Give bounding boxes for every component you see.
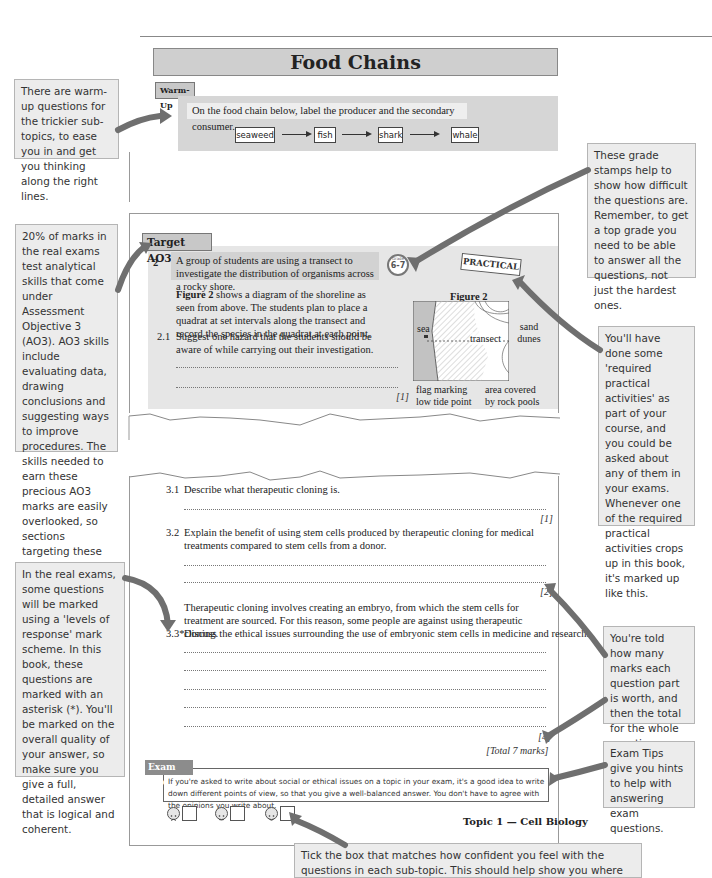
- callout-marks: You're told how many marks each question…: [603, 626, 695, 724]
- label-rock-pools: area covered by rock pools: [485, 384, 545, 408]
- q21-text: Suggest one hazard that the students sho…: [176, 330, 381, 356]
- q33-mark: [4]: [538, 731, 551, 742]
- answer-line[interactable]: [184, 565, 546, 566]
- figure-ref: Figure 2: [176, 289, 213, 300]
- arrow-exam-tips: [555, 765, 605, 778]
- answer-line[interactable]: [184, 509, 546, 510]
- chain-arrow: [342, 134, 370, 135]
- neutral-face-icon: [215, 807, 228, 820]
- answer-line[interactable]: [176, 367, 398, 368]
- confidence-checkbox-medium[interactable]: [230, 806, 245, 821]
- callout-exam-tips: Exam Tips give you hints to help with an…: [603, 741, 695, 808]
- arrow-warmup: [118, 116, 160, 130]
- answer-line[interactable]: [184, 707, 546, 708]
- page-title: Food Chains: [153, 48, 558, 76]
- answer-line[interactable]: [184, 582, 546, 583]
- label-flag: flag marking low tide point: [416, 384, 484, 408]
- label-transect: transect: [470, 332, 501, 345]
- q31-number: 3.1: [166, 483, 179, 496]
- callout-tick-box: Tick the box that matches how confident …: [294, 843, 642, 878]
- top-divider: [140, 36, 712, 37]
- callout-ao3: 20% of marks in the real exams test anal…: [15, 224, 118, 452]
- page1-bottom-edge: [129, 152, 130, 202]
- confidence-checkbox-low[interactable]: [182, 806, 197, 821]
- total-marks: [Total 7 marks]: [486, 745, 548, 756]
- q32-text: Explain the benefit of using stem cells …: [184, 526, 549, 552]
- chain-arrow: [410, 134, 438, 135]
- callout-warmup: There are warm-up questions for the tric…: [14, 79, 119, 159]
- sad-face-icon: [167, 807, 180, 820]
- answer-line[interactable]: [184, 652, 546, 653]
- answer-line[interactable]: [184, 670, 546, 671]
- answer-line[interactable]: [184, 689, 546, 690]
- exam-tip-tag: Exam Tip: [145, 760, 193, 775]
- answer-line[interactable]: [176, 387, 398, 388]
- happy-face-icon: [265, 807, 278, 820]
- label-sea: sea: [417, 322, 430, 335]
- q31-mark: [1]: [540, 513, 553, 524]
- answer-line[interactable]: [184, 726, 546, 727]
- callout-practical: You'll have done some 'required practica…: [598, 326, 695, 526]
- q32-number: 3.2: [166, 526, 179, 539]
- callout-grade-stamps: These grade stamps help to show how diff…: [587, 143, 696, 278]
- chain-arrow: [282, 134, 310, 135]
- grade-stamp-value: 6-7: [389, 261, 407, 270]
- q31-text: Describe what therapeutic cloning is.: [184, 483, 340, 496]
- chain-item-whale: whale: [451, 127, 479, 143]
- target-ao3-tag: Target AO3: [142, 233, 212, 251]
- callout-levels-of-response: In the real exams, some questions will b…: [15, 562, 125, 777]
- grade-stamp: Grade 6-7: [387, 254, 409, 276]
- q32-mark: [2]: [540, 586, 553, 597]
- chain-item-shark: shark: [378, 127, 403, 143]
- q21-mark: [1]: [396, 391, 409, 402]
- chain-item-seaweed: seaweed: [235, 127, 275, 143]
- warmup-question: On the food chain below, label the produ…: [187, 103, 467, 119]
- confidence-checkbox-high[interactable]: [280, 806, 295, 821]
- q33-number: 3.3*: [166, 627, 184, 640]
- label-sand-dunes: sand dunes: [513, 321, 545, 345]
- q33-text: Discuss the ethical issues surrounding t…: [184, 627, 564, 640]
- q21-number: 2.1: [157, 330, 170, 343]
- page-footer: Topic 1 — Cell Biology: [463, 816, 588, 827]
- chain-item-fish: fish: [314, 127, 336, 143]
- q2-number: 2: [153, 256, 158, 269]
- exam-tip-text: If you're asked to write about social or…: [168, 776, 546, 812]
